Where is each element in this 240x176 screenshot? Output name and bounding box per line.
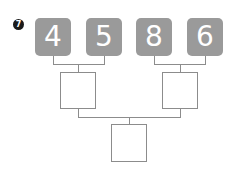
number-tile-1: 4 <box>35 18 71 56</box>
number-tile-3: 8 <box>136 18 172 56</box>
connector-line <box>129 117 130 124</box>
connector-line <box>205 56 206 64</box>
connector-line <box>180 64 181 72</box>
connector-line <box>78 64 79 72</box>
connector-line <box>78 109 79 117</box>
answer-box-middle-left[interactable] <box>60 72 96 109</box>
number-tile-2: 5 <box>86 18 122 56</box>
number-tile-4: 6 <box>187 18 223 56</box>
answer-box-bottom[interactable] <box>111 124 147 162</box>
connector-line <box>180 109 181 117</box>
connector-line <box>104 56 105 64</box>
connector-line <box>154 56 155 64</box>
problem-number-badge: 7 <box>13 19 24 30</box>
connector-line <box>53 64 105 65</box>
connector-line <box>53 56 54 64</box>
answer-box-middle-right[interactable] <box>162 72 198 109</box>
